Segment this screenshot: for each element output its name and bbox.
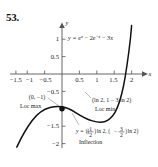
x-tick-label-1: 1 xyxy=(95,76,98,83)
local-max-point-label: (0, −1) xyxy=(29,94,45,101)
graph-svg: x y −1.5 −1 −0.5 0.5 1 1.5 2 xyxy=(0,0,158,167)
eq-op2: − xyxy=(102,34,106,41)
frac2-sign: − xyxy=(114,128,117,134)
x-tick-label-1.5: 1.5 xyxy=(109,76,118,83)
local-min-point-label: (ln 2, 1 − 3 ln 2) xyxy=(92,97,131,104)
y-axis-arrow xyxy=(59,23,65,29)
y-tick-label--2: −2 xyxy=(52,140,59,147)
y-ticks-group xyxy=(62,39,66,143)
frac2-denominator: 2 xyxy=(120,132,123,138)
inflection-fraction-half: 1 2 xyxy=(88,126,94,138)
figure-container: 53. x y −1.5 −1 −0.5 xyxy=(0,0,158,167)
y-tick-label--1.5: −1.5 xyxy=(47,122,60,129)
inflection-y: y = xyxy=(75,128,84,134)
x-tick-label--0.5: −0.5 xyxy=(40,76,53,83)
eq-op1: − xyxy=(85,34,89,41)
svg-text:y=ex−2e−x−3x: y=ex−2e−x−3x xyxy=(67,34,113,41)
inflection-end: )ln 2) xyxy=(125,128,138,135)
y-tick-label-1: 1 xyxy=(56,35,59,42)
frac1-tail: ln 2, xyxy=(97,128,108,134)
inflection-mid: )ln 2,( xyxy=(94,128,110,135)
y-tick-labels-group: 1 0.5 −0.5 −1.5 −2 xyxy=(47,35,60,146)
eq-lhs: y xyxy=(67,34,71,41)
x-tick-label--1: −1 xyxy=(26,76,33,83)
y-tick-label-0.5: 0.5 xyxy=(51,53,60,60)
local-max-marker xyxy=(59,106,64,111)
y-tick-label--0.5: −0.5 xyxy=(47,88,60,95)
x-tick-label--1.5: −1.5 xyxy=(10,76,23,83)
y-axis-label: y xyxy=(65,19,69,26)
x-tick-label-2: 2 xyxy=(130,76,133,83)
eq-equals: = xyxy=(73,34,77,41)
local-max-kind-label: Loc max xyxy=(20,103,41,109)
x-ticks-group xyxy=(16,71,132,75)
x-tick-label-0.5: 0.5 xyxy=(75,76,84,83)
eq-term1-exp: x xyxy=(80,34,83,39)
annotation-inflection: y =(( 1 2 )ln 2,( − 3 2 )ln 2) Inflectio… xyxy=(72,113,139,145)
x-axis-label: x xyxy=(148,70,152,77)
frac2-tail: ln 2 xyxy=(128,128,137,134)
eq-term2-exp: −x xyxy=(95,34,100,39)
x-axis-arrow xyxy=(142,71,148,77)
equation-label: y=ex−2e−x−3x xyxy=(67,34,113,41)
eq-term3: 3x xyxy=(106,34,113,41)
frac1-denominator: 2 xyxy=(89,132,92,138)
inflection-point-label: y =(( xyxy=(75,128,90,135)
inflection-fraction-neg-three-halves: − 3 2 xyxy=(114,126,125,138)
inflection-kind-label: Inflection xyxy=(79,139,102,145)
local-min-kind-label: Loc min xyxy=(95,106,115,112)
local-max-leader-line xyxy=(48,98,59,106)
annotation-local-min: (ln 2, 1 − 3 ln 2) Loc min xyxy=(85,92,131,112)
local-min-leader-line xyxy=(85,92,91,98)
x-tick-labels-group: −1.5 −1 −0.5 0.5 1 1.5 2 xyxy=(10,76,133,83)
problem-number: 53. xyxy=(6,11,19,23)
